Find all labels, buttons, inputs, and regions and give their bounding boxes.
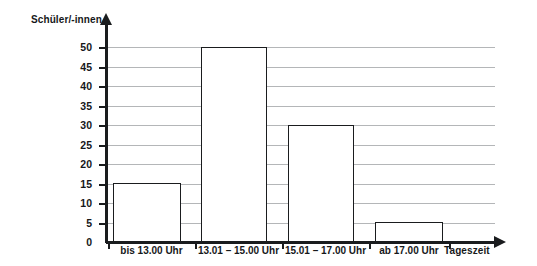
y-axis-arrow-icon [100, 13, 112, 25]
y-tick-label-35: 35 [52, 100, 92, 112]
y-tick-mark-50 [99, 47, 108, 49]
y-tick-mark-35 [99, 106, 108, 108]
y-tick-mark-20 [99, 164, 108, 166]
y-tick-mark-25 [99, 145, 108, 147]
y-tick-mark-40 [99, 86, 108, 88]
y-tick-mark-10 [99, 203, 108, 205]
x-axis-line [106, 241, 496, 244]
y-tick-label-25: 25 [52, 139, 92, 151]
y-axis-line [105, 22, 108, 243]
x-category-label-0: bis 13.00 Uhr [108, 245, 195, 256]
y-tick-label-45: 45 [52, 61, 92, 73]
y-tick-label-20: 20 [52, 158, 92, 170]
bar-chart-figure: Schüler/-innen Tageszeit 50 45 40 35 30 … [0, 0, 537, 266]
gridline-50 [108, 47, 495, 48]
x-axis-arrow-icon [494, 236, 506, 248]
y-tick-mark-45 [99, 67, 108, 69]
y-tick-label-30: 30 [52, 119, 92, 131]
y-tick-label-0: 0 [52, 236, 92, 248]
y-tick-mark-5 [99, 223, 108, 225]
x-category-label-1: 13.01 – 15.00 Uhr [192, 245, 285, 256]
y-tick-label-40: 40 [52, 80, 92, 92]
y-tick-label-15: 15 [52, 178, 92, 190]
x-tick-mark-4 [449, 241, 451, 249]
y-tick-mark-30 [99, 125, 108, 127]
y-tick-label-50: 50 [52, 41, 92, 53]
y-tick-mark-15 [99, 184, 108, 186]
bar-15-01-17-00-uhr [288, 125, 354, 242]
bar-13-01-15-00-uhr [201, 47, 267, 242]
x-category-label-2: 15.01 – 17.00 Uhr [279, 245, 372, 256]
bar-ab-17-00-uhr [375, 222, 443, 242]
gridline-40 [108, 86, 495, 87]
x-category-label-3: ab 17.00 Uhr [369, 245, 449, 256]
y-tick-label-5: 5 [52, 217, 92, 229]
gridline-45 [108, 67, 495, 68]
y-tick-label-10: 10 [52, 197, 92, 209]
bar-bis-13-00-uhr [113, 183, 181, 242]
gridline-35 [108, 106, 495, 107]
y-axis-title: Schüler/-innen [31, 14, 102, 25]
